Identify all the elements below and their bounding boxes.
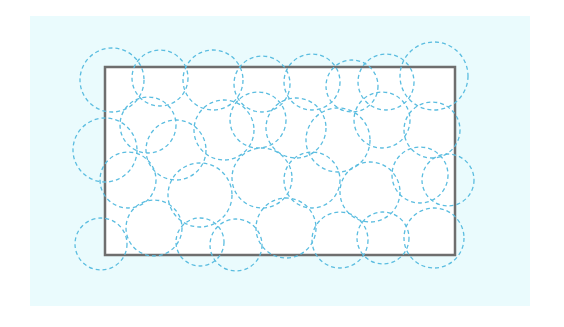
target-region-rectangle <box>105 67 455 255</box>
coverage-diagram <box>0 0 564 327</box>
